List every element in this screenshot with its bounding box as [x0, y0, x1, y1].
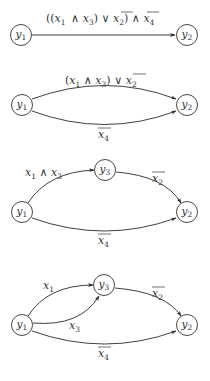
diagram-canvas: ((x1 ∧ x3) ∨ x2) ∧ x4 y1 y2 (x1 ∧ x3) ∨ …	[0, 0, 210, 381]
diagram-3: x1 ∧ x3 x2 x4 y1 y3 y2	[12, 160, 198, 249]
edge-label-y1-y2: ((x1 ∧ x3) ∨ x2) ∧ x4	[46, 12, 155, 27]
node-y3: y3	[94, 275, 115, 296]
node-y2: y2	[177, 315, 198, 336]
edge-label-lower: x4	[98, 128, 109, 143]
node-y1: y1	[12, 202, 33, 223]
node-y1: y1	[11, 25, 32, 46]
edge-y1-y3-upper	[28, 285, 93, 316]
diagram-2: (x1 ∧ x3) ∨ x2 x4 y1 y2	[12, 74, 198, 143]
edge-label-upper: (x1 ∧ x3) ∨ x2	[65, 74, 137, 89]
edge-label-x1: x1	[43, 279, 54, 294]
node-y2: y2	[177, 95, 198, 116]
edge-label-x3: x3	[69, 319, 80, 334]
edge-y3-y2	[115, 288, 181, 316]
edge-label-y1-y3: x1 ∧ x3	[25, 166, 62, 181]
node-y1: y1	[12, 95, 33, 116]
edge-label-y3-y2: x2	[152, 287, 163, 302]
edge-y3-y2	[116, 172, 181, 203]
edge-label-y1-y2: x4	[98, 234, 109, 249]
edge-label-y1-y2: x4	[98, 347, 109, 362]
node-y1: y1	[12, 315, 33, 336]
node-y2: y2	[177, 202, 198, 223]
edge-label-y3-y2: x2	[152, 172, 163, 187]
diagram-4: x1 x3 x2 x4 y1 y3 y2	[12, 275, 198, 362]
edge-y1-y2	[32, 331, 176, 344]
edge-y1-y2	[32, 218, 176, 231]
node-y2: y2	[177, 25, 198, 46]
edge-y1-y2-lower	[32, 111, 176, 125]
node-y3: y3	[95, 160, 116, 181]
diagram-1: ((x1 ∧ x3) ∨ x2) ∧ x4 y1 y2	[11, 12, 198, 46]
